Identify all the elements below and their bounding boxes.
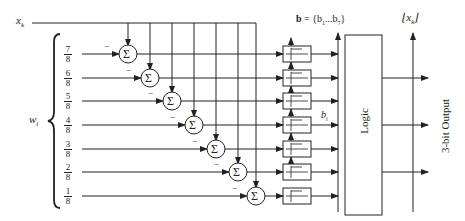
floor-output-label: ⌊xk⌋ (402, 12, 419, 26)
minus-sign: − (232, 184, 237, 193)
logic-label: Logic (358, 103, 370, 140)
bit-label: bi (321, 110, 328, 122)
input-label: xk (16, 15, 24, 29)
weight-fraction: 48 (63, 116, 73, 135)
weight-fraction: 38 (63, 140, 73, 159)
summer-symbol: Σ (189, 119, 196, 131)
bus-label: b = {b1...b7} (296, 14, 345, 26)
weights-brace (48, 34, 60, 208)
summer-symbol: Σ (211, 143, 218, 155)
weight-fraction: 28 (63, 163, 73, 182)
weight-fraction: 68 (63, 69, 73, 88)
minus-sign: − (214, 160, 219, 169)
minus-sign: − (104, 42, 109, 51)
summer-symbol: Σ (251, 190, 258, 202)
weight-fraction: 78 (63, 45, 73, 64)
summer-symbol: Σ (233, 166, 240, 178)
weights-label: wi (29, 114, 38, 128)
summer-symbol: Σ (123, 48, 130, 60)
summer-symbol: Σ (167, 95, 174, 107)
output-label: 3-bit Output (439, 91, 451, 161)
summer-symbol: Σ (145, 72, 152, 84)
minus-sign: − (126, 66, 131, 75)
minus-sign: − (192, 137, 197, 146)
minus-sign: − (170, 113, 175, 122)
minus-sign: − (148, 89, 153, 98)
weight-fraction: 18 (63, 187, 73, 206)
weight-fraction: 58 (63, 92, 73, 111)
